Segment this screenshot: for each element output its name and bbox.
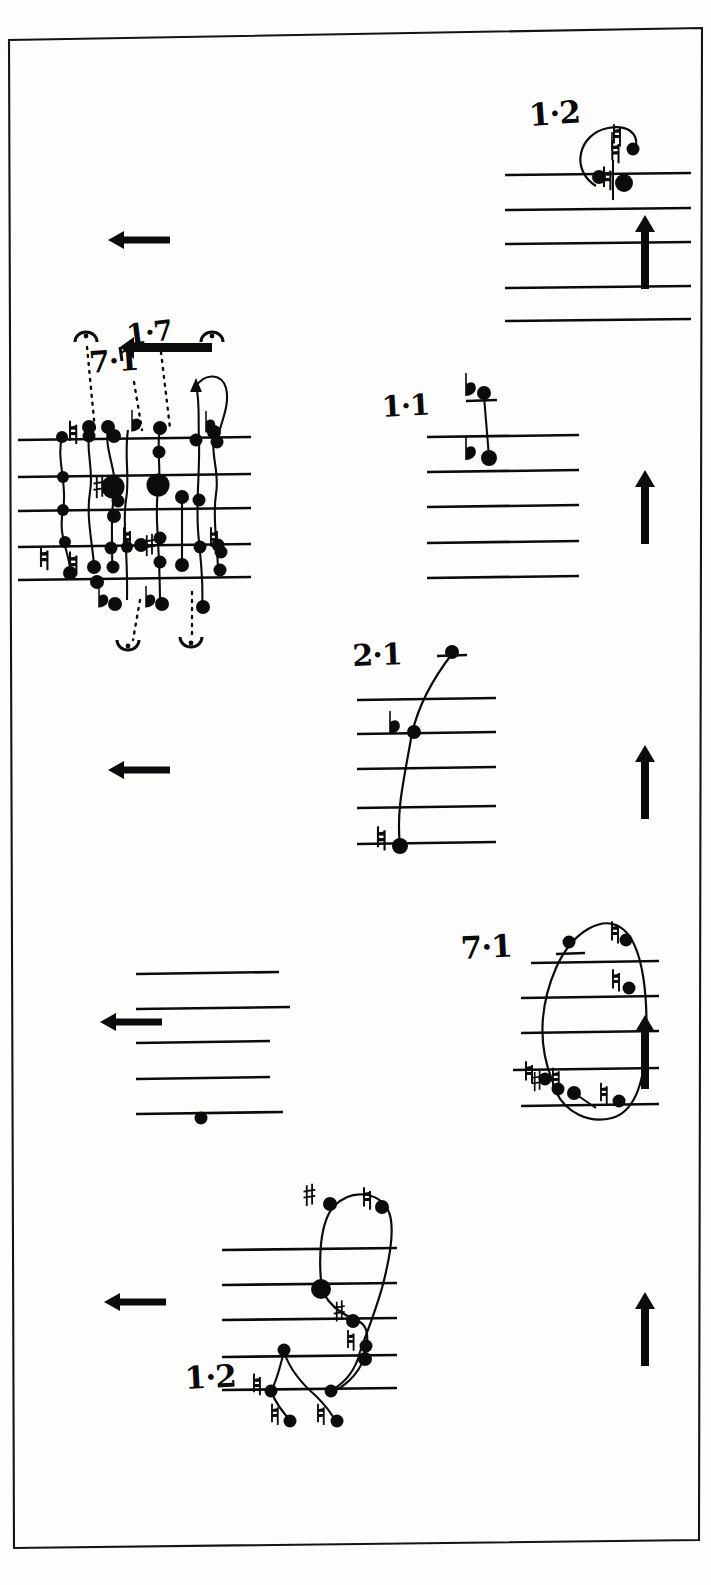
arrow-left-system-5 xyxy=(100,1013,162,1031)
natural-icon xyxy=(254,1374,260,1394)
ledger-line xyxy=(556,953,585,954)
system-1-label: 1·2 xyxy=(528,96,581,130)
system-3-label: 1·1 xyxy=(381,391,430,422)
notes-system-7 xyxy=(265,1197,390,1428)
arrow-left-system-4 xyxy=(108,761,170,779)
staff-lines-system-4 xyxy=(357,698,496,844)
system-6 xyxy=(513,922,659,1119)
system-4 xyxy=(108,645,655,854)
flat-icon xyxy=(466,374,475,396)
arrow-up-system-3 xyxy=(635,470,655,544)
fermata-icon xyxy=(201,332,223,342)
natural-icon xyxy=(612,141,618,162)
contour-line-system-3 xyxy=(484,396,489,457)
system-2-label-left: 7·1 xyxy=(88,345,139,378)
flat-icon xyxy=(206,411,215,431)
natural-icon xyxy=(272,1405,278,1424)
sharp-icon xyxy=(94,476,104,497)
flat-icon xyxy=(466,438,475,460)
notes-system-1 xyxy=(592,125,640,200)
ledger-line xyxy=(466,400,497,401)
arrow-up-system-6 xyxy=(635,1015,655,1089)
natural-icon xyxy=(348,1331,354,1350)
natural-icon xyxy=(614,125,620,145)
natural-icon xyxy=(526,1062,532,1082)
notes-system-4 xyxy=(392,645,459,854)
arrow-up-system-4 xyxy=(635,745,655,819)
natural-icon xyxy=(318,1405,324,1424)
contour-line-system-4 xyxy=(399,654,452,845)
fermata-icon xyxy=(117,640,139,650)
flat-icon xyxy=(99,586,108,606)
staff-lines-system-1 xyxy=(505,173,691,321)
natural-icon xyxy=(378,827,385,849)
arrow-up-system-1 xyxy=(635,215,655,289)
natural-icon xyxy=(601,1084,607,1103)
arrow-up-system-7 xyxy=(635,1292,655,1366)
score-page: 1·2 1·7 7·1 1·1 2·1 7·1 1·2 xyxy=(0,0,711,1585)
flat-icon xyxy=(146,586,155,606)
fermata-icon xyxy=(180,637,202,647)
contour-lines-system-2 xyxy=(60,376,227,608)
system-4-label: 2·1 xyxy=(352,639,402,671)
natural-icon xyxy=(364,1188,370,1209)
notehead xyxy=(195,1112,208,1125)
natural-icon xyxy=(604,168,610,190)
staff-lines-system-5 xyxy=(136,972,290,1114)
system-6-label: 7·1 xyxy=(460,930,512,964)
sharp-icon xyxy=(533,1072,542,1091)
fermata-icon xyxy=(75,332,97,342)
system-5 xyxy=(100,972,290,1125)
staff-lines-system-7 xyxy=(222,1248,397,1390)
arrow-left-system-1 xyxy=(108,231,170,249)
score-canvas xyxy=(0,0,711,1585)
staff-lines-system-2 xyxy=(18,437,251,580)
staff-lines-system-3 xyxy=(427,435,579,578)
notehead xyxy=(615,174,633,192)
flat-icon xyxy=(390,712,399,734)
natural-icon xyxy=(613,970,619,990)
system-7-label: 1·2 xyxy=(184,1360,236,1394)
system-2 xyxy=(18,332,251,650)
system-3 xyxy=(427,374,655,578)
natural-icon xyxy=(41,548,47,570)
contour-loop-system-7 xyxy=(320,1194,392,1352)
system-1 xyxy=(108,125,691,321)
sharp-icon xyxy=(304,1185,314,1206)
arrow-left-system-7 xyxy=(104,1293,166,1311)
notehead xyxy=(627,143,640,156)
